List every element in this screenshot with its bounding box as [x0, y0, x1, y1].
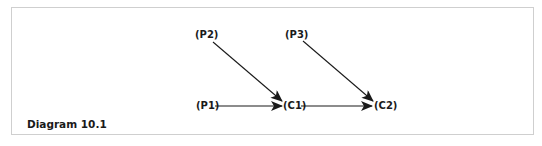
node-c1: (C1): [283, 100, 306, 111]
node-c2: (C2): [374, 100, 397, 111]
node-p1: (P1): [196, 100, 219, 111]
diagram-caption: Diagram 10.1: [27, 118, 107, 130]
node-p2: (P2): [195, 29, 218, 40]
edge-p2-to-c1: [213, 42, 282, 101]
node-p3: (P3): [285, 29, 308, 40]
edge-p3-to-c2: [303, 41, 373, 101]
